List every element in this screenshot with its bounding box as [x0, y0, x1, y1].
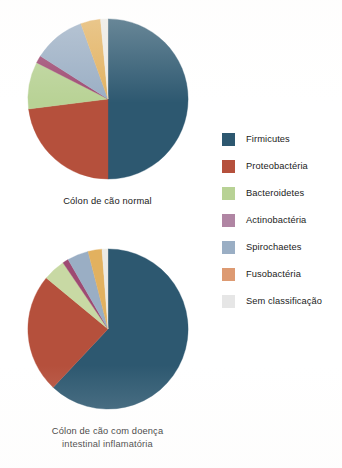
legend-item-bacteroidetes: Bacteroidetes — [222, 180, 340, 207]
legend-label-bacteroidetes: Bacteroidetes — [246, 188, 304, 199]
pie-normal-caption-line-1: Cólon de cão normal — [0, 195, 215, 208]
legend-item-sem-classificacao: Sem classificação — [222, 288, 340, 315]
pie-chart-ibd-svg — [19, 240, 197, 418]
legend-label-firmicutes: Firmicutes — [246, 134, 290, 145]
legend-item-firmicutes: Firmicutes — [222, 126, 340, 153]
legend-label-fusobacteria: Fusobactéria — [246, 269, 301, 280]
pie-ibd-caption-line-2: intestinal inflamatória — [0, 438, 215, 451]
figure-root: Cólon de cão normal Cólon de cão com doe… — [0, 0, 342, 468]
legend-item-spirochaetes: Spirochaetes — [222, 234, 340, 261]
pie-ibd-slices — [27, 249, 187, 409]
legend-item-proteobacteria: Proteobactéria — [222, 153, 340, 180]
legend-swatch-icon-firmicutes — [222, 133, 235, 146]
legend-swatch-icon-actinobacteria — [222, 214, 235, 227]
legend-label-actinobacteria: Actinobactéria — [246, 215, 306, 226]
pie-ibd-caption: Cólon de cão com doença intestinal infla… — [0, 425, 215, 450]
legend-swatch-icon-fusobacteria — [222, 268, 235, 281]
pie-normal-slices — [27, 19, 187, 179]
pie-slice — [28, 99, 107, 179]
pie-chart-normal-block: Cólon de cão normal — [0, 10, 215, 208]
legend-swatch-icon-spirochaetes — [222, 241, 235, 254]
pie-chart-normal-svg — [19, 10, 197, 188]
legend-item-fusobacteria: Fusobactéria — [222, 261, 340, 288]
pie-ibd-caption-line-1: Cólon de cão com doença — [0, 425, 215, 438]
legend-item-actinobacteria: Actinobactéria — [222, 207, 340, 234]
charts-column: Cólon de cão normal Cólon de cão com doe… — [0, 0, 215, 468]
legend-swatch-icon-proteobacteria — [222, 160, 235, 173]
legend-label-spirochaetes: Spirochaetes — [246, 242, 301, 253]
pie-chart-ibd — [19, 240, 197, 418]
legend-swatch-icon-bacteroidetes — [222, 187, 235, 200]
pie-chart-normal — [19, 10, 197, 188]
legend-label-sem-classificacao: Sem classificação — [246, 296, 322, 307]
legend-swatch-icon-sem-classificacao — [222, 295, 235, 308]
pie-slice — [108, 19, 188, 179]
legend: Firmicutes Proteobactéria Bacteroidetes … — [222, 126, 340, 315]
pie-normal-caption: Cólon de cão normal — [0, 195, 215, 208]
legend-label-proteobacteria: Proteobactéria — [246, 161, 308, 172]
pie-chart-ibd-block: Cólon de cão com doença intestinal infla… — [0, 240, 215, 450]
